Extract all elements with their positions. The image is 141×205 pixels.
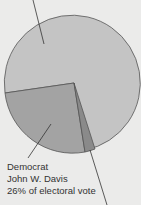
candidate-label: John W. Davis: [7, 173, 96, 185]
pie-slice-democrat: [5, 83, 85, 153]
democrat-label: Democrat John W. Davis 26% of electoral …: [7, 161, 96, 197]
share-label: 26% of electoral vote: [7, 185, 96, 197]
party-label: Democrat: [7, 161, 96, 173]
